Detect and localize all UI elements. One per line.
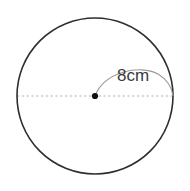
radius-measure-label: 8cm <box>117 66 149 85</box>
circle-radius-diagram: 8cm <box>0 0 190 191</box>
center-point <box>92 93 98 99</box>
diagram-canvas: 8cm <box>0 0 190 191</box>
